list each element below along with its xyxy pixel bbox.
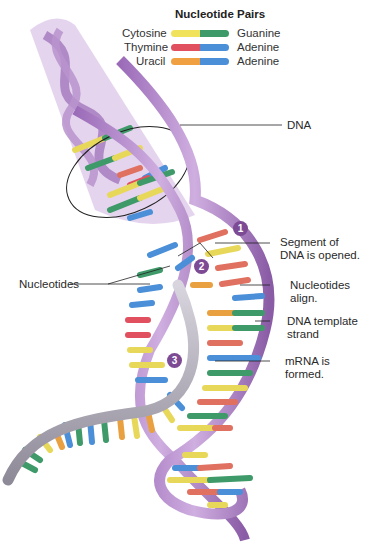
label-template-line2: strand xyxy=(287,328,319,341)
label-nucleotides: Nucleotides xyxy=(19,278,79,291)
step-badge-3: 3 xyxy=(167,353,182,368)
legend-left-label: Uracil xyxy=(136,55,165,67)
label-align-line1: Nucleotides xyxy=(290,279,350,292)
legend-right-label: Guanine xyxy=(237,27,280,39)
step-badge-1: 1 xyxy=(233,221,248,236)
label-template-line1: DNA template xyxy=(287,315,358,328)
legend-right-label: Adenine xyxy=(237,55,279,67)
label-mrna-line2: formed. xyxy=(285,368,324,381)
label-dna: DNA xyxy=(287,119,311,132)
legend-left-label: Thymine xyxy=(124,41,168,53)
legend-right-label: Adenine xyxy=(237,41,279,53)
dna-transcription-diagram: Nucleotide Pairs Cytosine Guanine Thymin… xyxy=(0,0,371,555)
legend-row-cytosine-guanine: Cytosine xyxy=(122,27,167,39)
label-mrna-line1: mRNA is xyxy=(285,355,330,368)
legend-swatch-ua xyxy=(171,58,229,65)
step-badge-2: 2 xyxy=(194,259,209,274)
legend-swatch-cg xyxy=(171,30,229,37)
legend-title: Nucleotide Pairs xyxy=(175,8,265,20)
legend-swatch-ta xyxy=(171,44,229,51)
legend-left-label: Cytosine xyxy=(122,27,167,39)
label-segment-line2: DNA is opened. xyxy=(280,249,360,262)
label-segment-line1: Segment of xyxy=(280,236,339,249)
label-align-line2: align. xyxy=(290,292,318,305)
